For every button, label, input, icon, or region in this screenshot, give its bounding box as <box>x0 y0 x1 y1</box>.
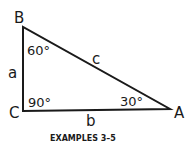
angle-label-a: 30° <box>120 94 143 109</box>
side-label-b: b <box>86 112 96 130</box>
right-triangle-diagram: B C A a b c 60° 90° 30° EXAMPLES 3–5 <box>0 0 194 147</box>
angle-label-c: 90° <box>28 95 51 110</box>
figure-caption: EXAMPLES 3–5 <box>50 134 116 143</box>
side-label-c: c <box>92 50 100 68</box>
vertex-label-a: A <box>174 104 185 122</box>
angle-label-b: 60° <box>27 43 50 58</box>
side-label-a: a <box>8 64 17 82</box>
vertex-label-b: B <box>14 9 24 27</box>
vertex-label-c: C <box>9 104 19 122</box>
